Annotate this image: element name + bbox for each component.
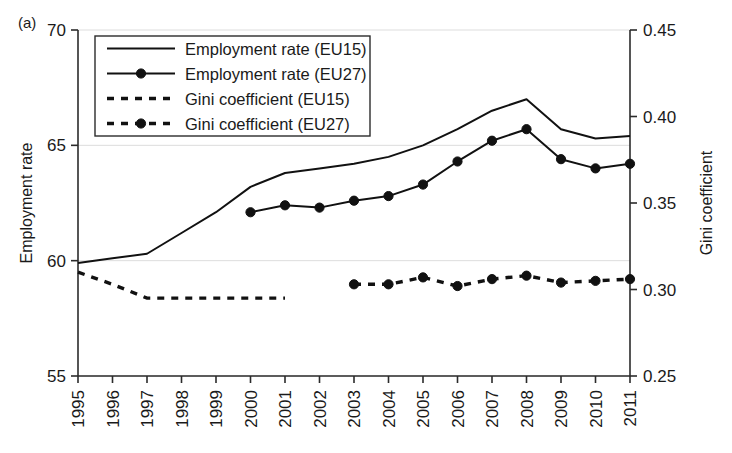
series-marker-1-0 (246, 208, 255, 217)
y-axis-left-tick-label: 65 (47, 136, 66, 155)
legend-label-0: Employment rate (EU15) (185, 40, 367, 58)
x-axis-tick-label: 2003 (345, 390, 364, 428)
y-axis-right-tick-label: 0.45 (643, 21, 676, 40)
series-marker-3-1 (384, 280, 393, 289)
y-axis-right-title: Gini coefficient (698, 150, 715, 255)
y-axis-left-tick-label: 55 (47, 367, 66, 386)
x-axis-tick-label: 2011 (621, 390, 640, 427)
series-marker-3-6 (556, 278, 565, 287)
x-axis-tick-label: 2008 (518, 390, 537, 428)
series-marker-3-8 (625, 275, 634, 284)
y-axis-right-tick-label: 0.25 (643, 367, 676, 386)
series-marker-3-5 (522, 271, 531, 280)
x-axis-tick-label: 2001 (276, 390, 295, 428)
panel-label: (a) (18, 14, 36, 31)
series-marker-1-3 (349, 196, 358, 205)
series-marker-1-8 (522, 125, 531, 134)
legend-marker-1 (136, 69, 145, 78)
series-marker-1-11 (625, 159, 634, 168)
series-path-2 (78, 272, 285, 298)
series-marker-3-4 (487, 275, 496, 284)
figure-panel-a: 556065700.250.300.350.400.45199519961997… (0, 0, 732, 453)
series-marker-1-7 (487, 136, 496, 145)
series-marker-3-2 (418, 273, 427, 282)
x-axis-tick-label: 1998 (173, 390, 192, 428)
series-marker-1-9 (556, 155, 565, 164)
y-axis-left-title: Employment rate (18, 142, 35, 263)
series-marker-1-10 (591, 164, 600, 173)
y-axis-left-tick-label: 70 (47, 21, 66, 40)
x-axis-tick-label: 2005 (414, 390, 433, 428)
chart-legend[interactable]: Employment rate (EU15)Employment rate (E… (95, 36, 370, 136)
employment-gini-line-chart: 556065700.250.300.350.400.45199519961997… (0, 0, 732, 453)
series-marker-3-0 (349, 280, 358, 289)
x-axis-tick-label: 1999 (207, 390, 226, 428)
x-axis-tick-label: 2002 (311, 390, 330, 428)
x-axis-tick-label: 2007 (483, 390, 502, 428)
y-axis-left-tick-label: 60 (47, 252, 66, 271)
x-axis-tick-label: 2000 (242, 390, 261, 428)
series-marker-3-3 (453, 281, 462, 290)
x-axis-tick-label: 1996 (104, 390, 123, 428)
y-axis-right-tick-label: 0.30 (643, 281, 676, 300)
legend-label-3: Gini coefficient (EU27) (185, 115, 350, 133)
legend-label-1: Employment rate (EU27) (185, 65, 367, 83)
x-axis-tick-label: 1995 (69, 390, 88, 428)
legend-marker-3 (136, 119, 145, 128)
x-axis-tick-label: 2010 (587, 390, 606, 428)
x-axis-tick-label: 2006 (449, 390, 468, 428)
series-marker-1-4 (384, 191, 393, 200)
series-marker-1-2 (315, 203, 324, 212)
x-axis-tick-label: 2004 (380, 390, 399, 428)
y-axis-right-tick-label: 0.35 (643, 194, 676, 213)
y-axis-right-tick-label: 0.40 (643, 108, 676, 127)
legend-label-2: Gini coefficient (EU15) (185, 90, 350, 108)
series-marker-1-5 (418, 180, 427, 189)
series-marker-1-1 (280, 201, 289, 210)
series-marker-3-7 (591, 276, 600, 285)
series-marker-1-6 (453, 157, 462, 166)
x-axis-tick-label: 1997 (138, 390, 157, 428)
x-axis-tick-label: 2009 (552, 390, 571, 428)
